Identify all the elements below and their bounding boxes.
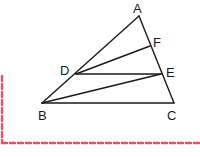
segment-df (76, 46, 150, 74)
segment-ab (42, 16, 139, 103)
vertex-label-c: C (167, 108, 176, 123)
segment-ac (139, 16, 174, 103)
vertex-label-b: B (38, 108, 47, 123)
vertex-label-a: A (133, 1, 142, 16)
vertex-label-f: F (153, 35, 161, 50)
segment-be (42, 74, 161, 103)
vertex-label-d: D (60, 63, 69, 78)
vertex-label-e: E (166, 65, 175, 80)
triangle-edges (42, 16, 174, 103)
geometry-diagram: A F D E B C (0, 0, 200, 157)
